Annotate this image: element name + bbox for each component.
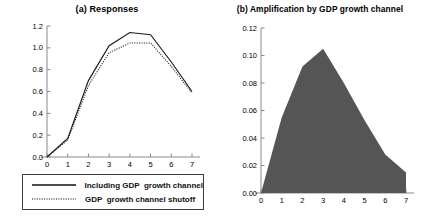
svg-text:0.2: 0.2	[33, 131, 43, 140]
legend-entry-shutoff: GDP growth channel shutoff	[23, 192, 203, 206]
panel-b-plot: 0.000.020.040.060.080.100.1201234567	[213, 0, 427, 218]
svg-text:7: 7	[190, 160, 194, 169]
svg-text:0.8: 0.8	[33, 65, 43, 74]
legend: Including GDP growth channel GDP growth …	[22, 174, 204, 210]
svg-text:5: 5	[148, 160, 152, 169]
legend-entry-including: Including GDP growth channel	[23, 178, 203, 192]
svg-text:3: 3	[321, 196, 325, 205]
svg-text:4: 4	[342, 196, 346, 205]
legend-label-including: Including GDP growth channel	[84, 181, 203, 190]
panel-b-amplification: (b) Amplification by GDP growth channel …	[213, 0, 427, 218]
solid-line-icon	[23, 181, 84, 189]
svg-text:0: 0	[45, 160, 49, 169]
legend-label-shutoff: GDP growth channel shutoff	[85, 195, 195, 204]
svg-text:0.10: 0.10	[242, 51, 257, 60]
svg-text:1: 1	[280, 196, 284, 205]
svg-text:0.06: 0.06	[242, 106, 257, 115]
dotted-line-icon	[23, 195, 85, 203]
panel-b-title: (b) Amplification by GDP growth channel	[213, 4, 427, 14]
svg-text:0.04: 0.04	[242, 134, 257, 143]
svg-text:2: 2	[86, 160, 90, 169]
svg-text:0.4: 0.4	[33, 109, 43, 118]
svg-text:0.02: 0.02	[242, 161, 257, 170]
svg-text:4: 4	[128, 160, 132, 169]
svg-text:1.0: 1.0	[33, 43, 43, 52]
svg-text:6: 6	[169, 160, 173, 169]
svg-text:0.6: 0.6	[33, 87, 43, 96]
svg-text:0.08: 0.08	[242, 79, 257, 88]
figure-two-panel-chart: (a) Responses 0.00.20.40.60.81.01.201234…	[0, 0, 427, 218]
svg-text:1.2: 1.2	[33, 22, 43, 31]
svg-text:7: 7	[404, 196, 408, 205]
svg-text:0.0: 0.0	[33, 153, 43, 162]
svg-text:0.12: 0.12	[242, 24, 257, 33]
svg-text:1: 1	[66, 160, 70, 169]
svg-text:5: 5	[362, 196, 366, 205]
panel-a-title: (a) Responses	[0, 4, 214, 14]
svg-text:2: 2	[300, 196, 304, 205]
panel-a-responses: (a) Responses 0.00.20.40.60.81.01.201234…	[0, 0, 214, 218]
svg-text:6: 6	[383, 196, 387, 205]
svg-text:0.00: 0.00	[242, 189, 257, 198]
svg-text:3: 3	[107, 160, 111, 169]
svg-text:0: 0	[259, 196, 263, 205]
